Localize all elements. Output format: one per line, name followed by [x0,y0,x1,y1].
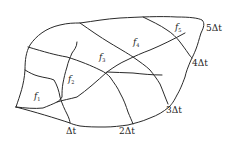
isochrone-dt3-line [80,23,168,104]
label-f3: f3 [98,52,106,63]
label-dt2: 2Δt [119,126,135,136]
label-dt3: 3Δt [166,105,182,115]
isochrone-dt1-line [25,70,70,123]
isochrone-dt4-line [143,17,192,58]
label-dt4: 4Δt [192,58,208,68]
label-f1: f1 [33,91,41,102]
watershed-diagram: f1 f2 f3 f4 f5 Δt 2Δt 3Δt 4Δt 5Δt [0,0,235,148]
label-dt1: Δt [66,126,76,136]
label-dt5: 5Δt [206,23,222,33]
tributary-f2 [57,42,77,102]
label-f4: f4 [132,37,140,48]
tributary-f3 [107,72,162,75]
isochrone-dt2-line [28,47,133,124]
label-f5: f5 [174,22,182,33]
label-f2: f2 [67,74,75,85]
